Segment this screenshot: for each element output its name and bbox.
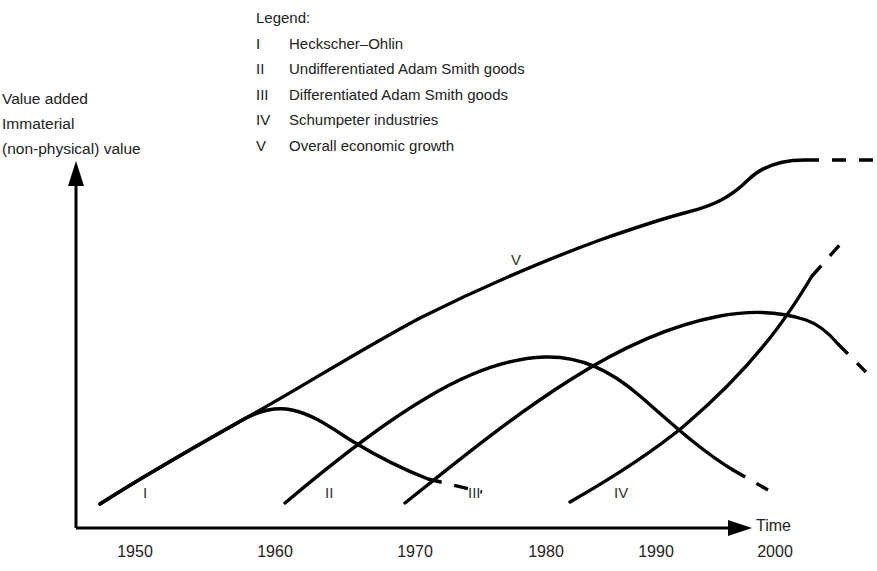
legend-item-5: V Overall economic growth xyxy=(256,133,525,159)
legend-numeral-2: II xyxy=(256,56,289,82)
legend: Legend: I Heckscher–Ohlin II Undifferent… xyxy=(256,5,525,158)
curve-I-heckscher-ohlin xyxy=(100,409,482,504)
legend-label-1: Heckscher–Ohlin xyxy=(289,31,403,57)
curve-V-overall-economic-growth xyxy=(100,160,877,504)
x-axis-label: Time xyxy=(756,517,791,535)
x-tick-label-1960: 1960 xyxy=(245,543,305,561)
curve-tag-I: I xyxy=(143,484,147,501)
y-axis-arrowhead xyxy=(68,161,84,186)
y-axis-caption-line-2: Immaterial xyxy=(2,111,141,136)
y-axis-caption-line-3: (non-physical) value xyxy=(2,136,141,161)
curve-II-undifferentiated-adam-smith-goods xyxy=(285,357,768,503)
x-axis xyxy=(76,520,752,536)
legend-label-5: Overall economic growth xyxy=(289,133,454,159)
legend-item-3: III Differentiated Adam Smith goods xyxy=(256,82,525,108)
x-tick-label-1950: 1950 xyxy=(105,543,165,561)
y-axis-caption-line-1: Value added xyxy=(2,86,141,111)
x-tick-label-2000: 2000 xyxy=(745,543,805,561)
curve-IV-schumpeter-industries xyxy=(570,241,843,502)
curve-tag-V: V xyxy=(511,251,521,268)
y-axis-caption: Value added Immaterial (non-physical) va… xyxy=(2,86,141,161)
x-tick-label-1980: 1980 xyxy=(516,543,576,561)
legend-numeral-4: IV xyxy=(256,107,289,133)
legend-numeral-5: V xyxy=(256,133,289,159)
legend-item-4: IV Schumpeter industries xyxy=(256,107,525,133)
x-tick-label-1970: 1970 xyxy=(385,543,445,561)
legend-label-4: Schumpeter industries xyxy=(289,107,438,133)
curve-tag-IV: IV xyxy=(614,484,628,501)
curve-III-differentiated-adam-smith-goods xyxy=(405,313,866,503)
legend-item-1: I Heckscher–Ohlin xyxy=(256,31,525,57)
economic-growth-stages-chart: Value added Immaterial (non-physical) va… xyxy=(0,0,877,571)
legend-numeral-1: I xyxy=(256,31,289,57)
curve-tag-III: III xyxy=(468,484,481,501)
y-axis xyxy=(68,161,84,528)
legend-label-3: Differentiated Adam Smith goods xyxy=(289,82,508,108)
legend-item-2: II Undifferentiated Adam Smith goods xyxy=(256,56,525,82)
legend-numeral-3: III xyxy=(256,82,289,108)
curve-tag-II: II xyxy=(325,484,333,501)
x-axis-arrowhead xyxy=(728,520,752,536)
legend-label-2: Undifferentiated Adam Smith goods xyxy=(289,56,525,82)
x-tick-label-1990: 1990 xyxy=(626,543,686,561)
legend-title: Legend: xyxy=(256,5,525,31)
